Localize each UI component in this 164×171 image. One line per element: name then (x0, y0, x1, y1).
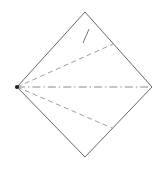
diamond-fold-diagram (0, 0, 164, 171)
figure-canvas (0, 0, 164, 171)
diamond-outline (17, 12, 152, 157)
left-vertex-point-marker (15, 85, 19, 89)
upper-fold-line (17, 44, 113, 87)
apex-tick-mark (83, 29, 89, 43)
lower-fold-line (17, 87, 112, 128)
